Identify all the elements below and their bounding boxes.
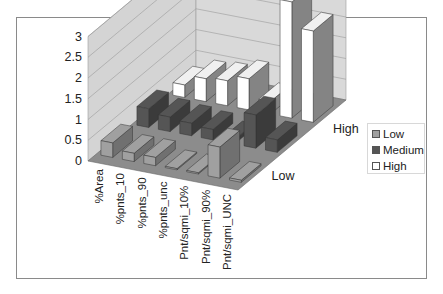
depth-label-high: High (333, 122, 359, 136)
legend-label: High (383, 160, 407, 172)
y-tick-label: 3 (75, 30, 82, 44)
x-category-label: %pnts_10 (114, 173, 126, 224)
legend-label: Medium (383, 144, 424, 156)
y-tick-label: 2 (75, 71, 82, 85)
legend-item-high: High (372, 158, 424, 174)
legend-swatch-high (372, 162, 380, 170)
x-category-label: Pnt/sqmi_10% (178, 186, 190, 260)
y-tick-label: 1 (75, 113, 82, 127)
y-tick-label: 2.5 (65, 50, 82, 64)
legend-label: Low (383, 128, 404, 140)
y-tick-label: 0.5 (65, 133, 82, 147)
bar (301, 12, 333, 122)
legend-swatch-low (372, 130, 380, 138)
legend: Low Medium High (367, 123, 425, 174)
x-category-label: Pnt/sqmi_UNC (221, 194, 233, 270)
x-category-label: %pnts_90 (136, 177, 148, 228)
legend-item-low: Low (372, 126, 424, 142)
depth-label-low: Low (272, 169, 296, 183)
legend-swatch-medium (372, 146, 380, 154)
legend-item-medium: Medium (372, 142, 424, 158)
y-tick-label: 1.5 (65, 92, 82, 106)
x-category-label: %Area (93, 168, 105, 203)
x-category-label: %pnts_unc (157, 181, 169, 238)
x-category-label: Pnt/sqmi_90% (200, 190, 212, 264)
y-tick-label: 0 (75, 154, 82, 168)
